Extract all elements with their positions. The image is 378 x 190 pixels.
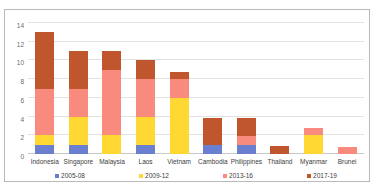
- plot-area: 02468101214: [28, 23, 364, 154]
- legend-label: 2009-12: [145, 173, 169, 180]
- legend-item-2005-08[interactable]: 2005-08: [55, 173, 85, 180]
- bar-segment-2013-16[interactable]: [304, 128, 323, 135]
- legend-label: 2017-19: [313, 173, 337, 180]
- x-axis-label-myanmar: Myanmar: [297, 156, 331, 168]
- bar-segment-2013-16[interactable]: [170, 79, 189, 98]
- bar-segment-2017-19[interactable]: [237, 118, 256, 137]
- legend-item-2009-12[interactable]: 2009-12: [139, 173, 169, 180]
- bar-segment-2017-19[interactable]: [69, 51, 88, 88]
- stacked-bar[interactable]: [338, 147, 357, 154]
- x-axis-label-malaysia: Malaysia: [95, 156, 129, 168]
- stacked-bar[interactable]: [102, 51, 121, 154]
- stacked-bar[interactable]: [170, 72, 189, 154]
- chart-legend: 2005-082009-122013-162017-19: [28, 170, 364, 182]
- bar-segment-2013-16[interactable]: [237, 136, 256, 144]
- bar-segment-2017-19[interactable]: [203, 118, 222, 145]
- bar-segment-2005-08[interactable]: [237, 145, 256, 154]
- bar-segment-2005-08[interactable]: [35, 145, 54, 154]
- stacked-bar[interactable]: [203, 118, 222, 154]
- x-axis-label-indonesia: Indonesia: [28, 156, 62, 168]
- bar-column[interactable]: [129, 23, 163, 154]
- stacked-bar[interactable]: [35, 32, 54, 154]
- legend-swatch-icon: [223, 174, 227, 178]
- bar-column[interactable]: [28, 23, 62, 154]
- bar-segment-2009-12[interactable]: [35, 135, 54, 144]
- legend-label: 2013-16: [229, 173, 253, 180]
- x-axis-label-singapore: Singapore: [62, 156, 96, 168]
- legend-item-2017-19[interactable]: 2017-19: [307, 173, 337, 180]
- x-axis-label-brunei: Brunei: [330, 156, 364, 168]
- bar-segment-2005-08[interactable]: [203, 145, 222, 154]
- bar-segment-2017-19[interactable]: [270, 146, 289, 154]
- bar-column[interactable]: [196, 23, 230, 154]
- bar-segment-2017-19[interactable]: [102, 51, 121, 70]
- bar-segment-2009-12[interactable]: [69, 117, 88, 145]
- bar-column[interactable]: [297, 23, 331, 154]
- bar-segment-2013-16[interactable]: [69, 89, 88, 117]
- stacked-bar[interactable]: [304, 128, 323, 154]
- legend-swatch-icon: [139, 174, 143, 178]
- bar-column[interactable]: [162, 23, 196, 154]
- bar-segment-2009-12[interactable]: [170, 98, 189, 154]
- x-axis-label-laos: Laos: [129, 156, 163, 168]
- x-axis-labels: IndonesiaSingaporeMalaysiaLaosVietnamCam…: [28, 156, 364, 168]
- bar-segment-2009-12[interactable]: [304, 135, 323, 154]
- bar-segment-2009-12[interactable]: [136, 117, 155, 145]
- bar-segment-2017-19[interactable]: [35, 32, 54, 88]
- stacked-bar[interactable]: [136, 60, 155, 154]
- bar-segment-2005-08[interactable]: [69, 145, 88, 154]
- legend-swatch-icon: [55, 174, 59, 178]
- bar-column[interactable]: [263, 23, 297, 154]
- x-axis-label-thailand: Thailand: [263, 156, 297, 168]
- bar-segment-2013-16[interactable]: [102, 70, 121, 136]
- x-axis-label-cambodia: Cambodia: [196, 156, 230, 168]
- stacked-bar[interactable]: [270, 146, 289, 154]
- stacked-bar[interactable]: [69, 51, 88, 154]
- bar-series-group: [28, 23, 364, 154]
- chart-frame: 02468101214 IndonesiaSingaporeMalaysiaLa…: [4, 9, 370, 182]
- bar-column[interactable]: [62, 23, 96, 154]
- bar-segment-2017-19[interactable]: [170, 72, 189, 79]
- legend-item-2013-16[interactable]: 2013-16: [223, 173, 253, 180]
- legend-swatch-icon: [307, 174, 311, 178]
- bar-column[interactable]: [95, 23, 129, 154]
- bar-segment-2013-16[interactable]: [136, 79, 155, 116]
- bar-segment-2005-08[interactable]: [136, 145, 155, 154]
- x-axis-label-philippines: Philippines: [230, 156, 264, 168]
- x-axis-label-vietnam: Vietnam: [162, 156, 196, 168]
- legend-label: 2005-08: [61, 173, 85, 180]
- stacked-bar[interactable]: [237, 118, 256, 154]
- bar-column[interactable]: [330, 23, 364, 154]
- bar-segment-2017-19[interactable]: [136, 60, 155, 79]
- bar-segment-2013-16[interactable]: [338, 147, 357, 154]
- bar-segment-2013-16[interactable]: [35, 89, 54, 136]
- bar-column[interactable]: [230, 23, 264, 154]
- bar-segment-2009-12[interactable]: [102, 135, 121, 154]
